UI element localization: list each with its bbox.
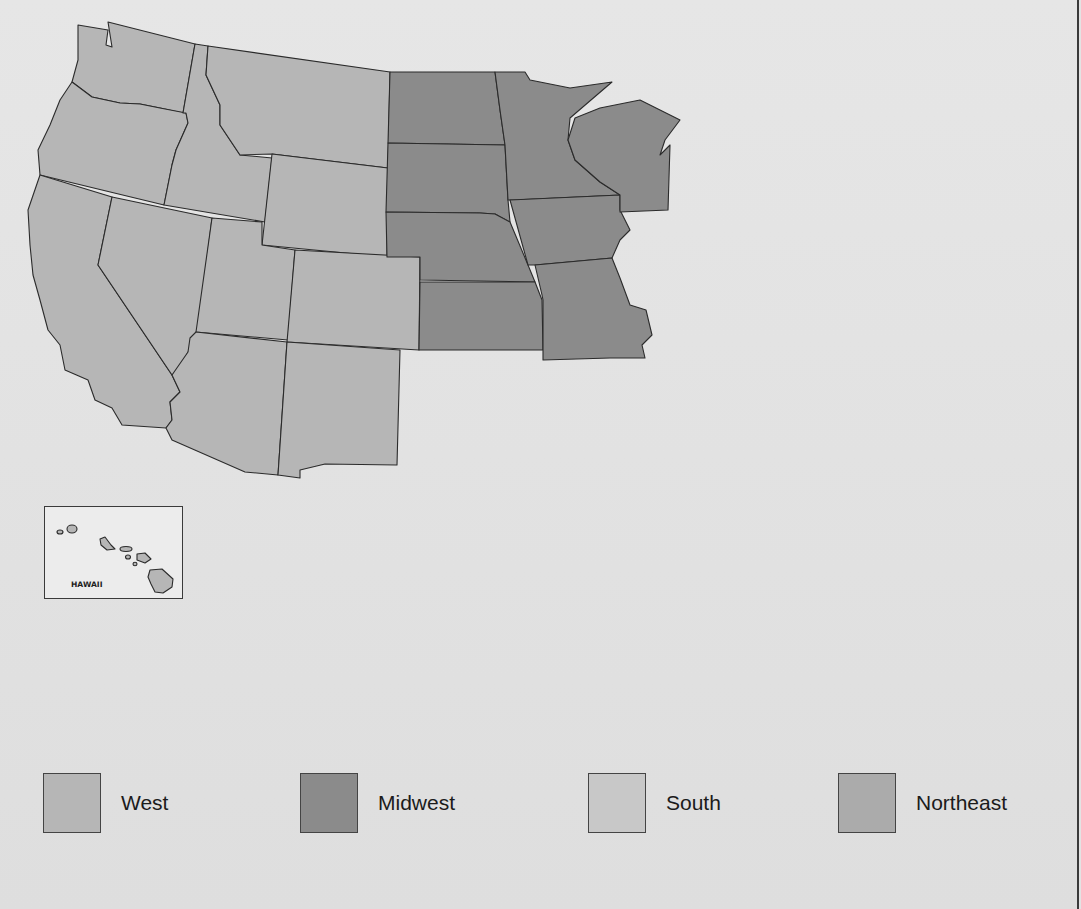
- state-wyoming[interactable]: [262, 154, 388, 257]
- hawaii-inset[interactable]: HAWAII: [44, 506, 183, 599]
- state-north-dakota[interactable]: [388, 72, 505, 145]
- legend-swatch-northeast: [838, 773, 896, 833]
- island-kahoolawe: [133, 562, 137, 566]
- legend-label-south: South: [666, 791, 721, 815]
- state-south-dakota[interactable]: [386, 143, 510, 222]
- island-oahu: [100, 537, 115, 550]
- legend-label-west: West: [121, 791, 168, 815]
- state-new-mexico[interactable]: [278, 342, 400, 478]
- island-hawaii: [148, 569, 173, 593]
- legend-swatch-midwest: [300, 773, 358, 833]
- label-hawaii: HAWAII: [71, 580, 102, 589]
- legend-item-south: South: [588, 772, 721, 834]
- state-kansas[interactable]: [419, 282, 543, 350]
- state-colorado[interactable]: [287, 250, 420, 350]
- state-missouri[interactable]: [535, 258, 652, 360]
- legend-item-midwest: Midwest: [300, 772, 455, 834]
- island-maui: [137, 553, 151, 563]
- island-niihau: [57, 530, 63, 534]
- state-iowa[interactable]: [510, 195, 630, 265]
- legend-item-northeast: Northeast: [838, 772, 1007, 834]
- island-kauai: [67, 525, 77, 533]
- island-lanai: [126, 555, 131, 559]
- legend-item-west: West: [43, 772, 168, 834]
- hawaii-map: [45, 507, 184, 600]
- legend-label-northeast: Northeast: [916, 791, 1007, 815]
- legend-label-midwest: Midwest: [378, 791, 455, 815]
- island-molokai: [120, 547, 132, 552]
- legend-swatch-west: [43, 773, 101, 833]
- legend-swatch-south: [588, 773, 646, 833]
